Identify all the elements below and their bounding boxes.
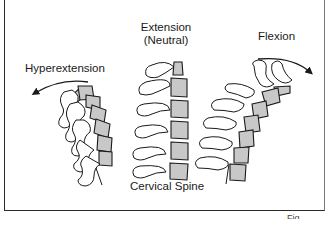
neutral-label-line1: Extension xyxy=(140,21,192,34)
neutral-posterior-elements xyxy=(133,62,174,178)
hyperextension-label: Hyperextension xyxy=(25,62,105,75)
neutral-label: Extension (Neutral) xyxy=(140,21,192,47)
neutral-spine xyxy=(170,62,188,180)
figure-title: Cervical Spine xyxy=(130,180,204,193)
figure-caption-cropped: Fig. xyxy=(287,214,302,219)
neutral-label-line2: (Neutral) xyxy=(140,34,192,47)
flexion-label: Flexion xyxy=(258,30,295,43)
flexion-spine xyxy=(230,86,290,181)
